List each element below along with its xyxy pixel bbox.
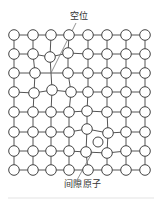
atom-circle [45,52,56,63]
atom-circle [121,146,132,157]
atom-circle [140,146,151,157]
atom-circle [63,68,74,79]
atom-circle [9,127,20,138]
atom-circle [9,49,20,60]
atom-circle [28,165,39,176]
atom-circle [82,106,93,117]
atom-circle [66,87,77,98]
interstitial-atom-label: 间隙原子 [64,180,101,189]
atom-circle [102,68,113,79]
atom-circle [121,107,132,118]
atom-circle [102,107,113,118]
atom-circle [140,87,151,98]
atom-circle [121,30,132,41]
atom-circle [83,165,94,176]
atom-circle [121,49,132,60]
atom-circle [83,68,94,79]
atom-circle [102,30,113,41]
atom-circle [63,48,74,59]
atom-circle [64,107,75,118]
atom-circle [83,87,94,98]
atom-circle [28,146,39,157]
atom-circle [28,49,39,60]
atom-circle [46,107,57,118]
atom-circle [140,165,151,176]
atom-circle [121,127,132,138]
atom-circle [9,107,20,118]
atom-circle [9,165,20,176]
atom-circle [9,30,20,41]
atom-circle [64,127,75,138]
atom-circle [28,107,39,118]
atom-circle [83,49,94,60]
atom-circle [46,165,57,176]
lattice-atoms [9,30,151,176]
figure-caption-faint [8,197,154,199]
atom-circle [140,68,151,79]
atom-circle [81,147,92,158]
atom-circle [28,30,39,41]
atom-circle [121,87,132,98]
lattice-diagram: 空位 间隙原子 [0,0,161,204]
atom-circle [46,30,57,41]
interstitial-atom-circle [93,137,103,147]
atom-circle [29,88,40,99]
vacancy-label: 空位 [70,12,88,21]
atom-circle [46,127,57,138]
atom-circle [102,87,113,98]
atom-circle [9,146,20,157]
atom-circle [46,146,57,157]
atom-circle [140,49,151,60]
atom-circle [140,30,151,41]
atom-circle [121,165,132,176]
atom-circle [83,30,94,41]
atom-circle [64,146,75,157]
atom-circle [102,165,113,176]
atom-circle [9,87,20,98]
atom-circle [102,148,113,159]
atom-circle [140,127,151,138]
atom-circle [47,85,58,96]
atom-circle [9,68,20,79]
lattice-svg [0,0,161,204]
atom-circle [82,124,93,135]
atom-circle [28,127,39,138]
atom-circle [64,165,75,176]
atom-circle [30,68,41,79]
atom-circle [121,68,132,79]
atom-circle [103,128,114,139]
atom-circle [102,49,113,60]
atom-circle [140,107,151,118]
atom-circle [64,30,75,41]
